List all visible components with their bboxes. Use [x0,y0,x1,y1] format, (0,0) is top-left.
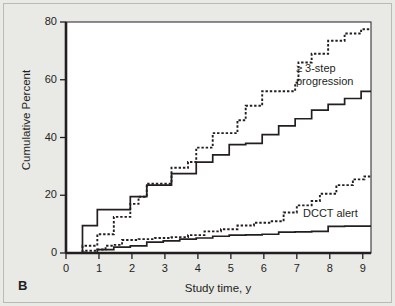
figure-panel-b: Cumulative Percent Study time, y B ≥ 3-s… [0,0,395,306]
panel-label: B [18,278,27,293]
y-axis-tick-label: 80 [31,15,57,27]
x-axis-tick-label: 6 [254,262,274,274]
x-axis-tick-label: 0 [56,262,76,274]
annotation-progression-line2: progression [296,75,353,88]
chart-plot-area [0,0,395,306]
x-axis-label: Study time, y [66,282,370,294]
y-axis-tick-label: 0 [31,246,57,258]
annotation-progression-line1: ≥ 3-step [296,62,353,75]
annotation-dcct-alert: DCCT alert [303,207,358,220]
y-axis-tick-label: 60 [31,73,57,85]
x-axis-tick-label: 2 [122,262,142,274]
x-axis-tick-label: 8 [320,262,340,274]
y-axis-tick-label: 20 [31,188,57,200]
x-axis-tick-label: 7 [287,262,307,274]
x-axis-tick-label: 9 [353,262,373,274]
x-axis-tick-label: 3 [155,262,175,274]
annotation-progression: ≥ 3-step progression [296,62,353,88]
x-axis-tick-label: 4 [188,262,208,274]
x-axis-tick-label: 5 [221,262,241,274]
x-axis-tick-label: 1 [89,262,109,274]
y-axis-tick-label: 40 [31,131,57,143]
